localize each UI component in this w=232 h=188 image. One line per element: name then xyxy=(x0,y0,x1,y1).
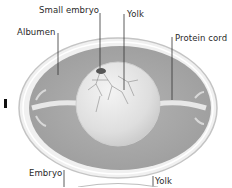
label-yolk-bottom: Yolk xyxy=(155,176,172,186)
lower-egg-outline xyxy=(78,184,158,188)
section-marker xyxy=(4,99,7,108)
label-yolk-top: Yolk xyxy=(127,9,144,19)
egg-diagram: Small embryo Yolk Albumen Protein cord E… xyxy=(0,0,232,187)
label-albumen: Albumen xyxy=(17,27,56,37)
yolk xyxy=(76,62,160,146)
label-embryo: Embryo xyxy=(29,168,62,178)
label-small-embryo: Small embryo xyxy=(39,5,99,15)
small-embryo-spot xyxy=(96,68,106,74)
label-protein-cord: Protein cord xyxy=(175,33,227,43)
